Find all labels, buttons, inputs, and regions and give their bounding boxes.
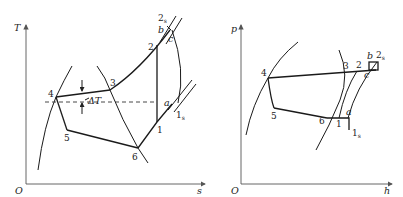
ph-saturated-vapor-line [316,50,345,150]
line-5-6 [67,130,138,148]
point-c-label: c [168,33,174,44]
ts-diagram: T s O ΔT 4 3 2 2s b c [14,13,205,196]
point-2-label: 2 [148,42,154,52]
point-2s-label: 2s [158,13,167,24]
ph-point-3-label: 3 [343,61,349,71]
point-1-label: 1 [157,125,163,135]
h-axis-label: h [384,185,390,196]
ph-point-6-label: 6 [319,116,325,126]
upper-vapor-curve [172,30,181,103]
saturated-liquid-line [38,66,72,170]
p-axis-label: p [231,23,237,34]
ph-point-2-label: 2 [356,60,362,70]
line-near-1s-a [168,80,192,110]
point-6-label: 6 [132,152,138,162]
ph-point-2s-label: 2s [376,50,385,61]
ph-point-1s-label: 1s [352,128,361,139]
ph-point-1-label: 1 [336,119,342,129]
ph-line-4-2s [268,70,376,78]
ph-diagram: p h O 4 3 2 b 2s c 5 6 1 a 1s [231,23,392,196]
ph-saturated-liquid-line [246,42,298,135]
line-4-3 [56,90,110,97]
ph-point-4-label: 4 [261,68,267,78]
line-3-2 [110,30,170,90]
origin-label: O [15,185,23,196]
point-4-label: 4 [48,89,54,99]
ph-point-5-label: 5 [271,111,277,121]
ph-point-c-label: c [364,69,370,80]
point-1s-label: 1s [176,110,185,121]
s-axis-label: s [197,185,202,196]
thermo-diagrams: T s O ΔT 4 3 2 2s b c [0,0,403,197]
line-6-1-a [138,104,172,148]
point-3-label: 3 [110,78,116,88]
t-axis-label: T [14,22,21,33]
ph-point-a-label: a [346,106,352,117]
point-5-label: 5 [64,133,70,143]
delta-t-label: ΔT [87,95,102,106]
origin-label-ph: O [231,185,239,196]
ph-line-4-5 [268,78,274,108]
point-b-label: b [158,24,164,35]
point-a-label: a [164,97,170,108]
ph-point-b-label: b [367,50,373,61]
